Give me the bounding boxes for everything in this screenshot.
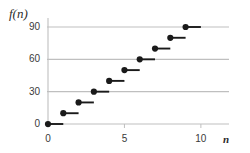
y-axis-label: f(n) xyxy=(9,6,28,22)
data-point-5 xyxy=(121,67,127,73)
data-point-3 xyxy=(91,89,97,95)
data-point-9 xyxy=(182,24,188,30)
x-axis-label: n xyxy=(223,133,229,145)
y-tick-label-90: 90 xyxy=(14,21,40,32)
data-point-4 xyxy=(106,78,112,84)
data-point-8 xyxy=(167,35,173,41)
gridlines-group xyxy=(47,27,229,124)
x-tick-label-5: 5 xyxy=(113,133,135,144)
data-point-0 xyxy=(45,121,51,127)
y-tick-label-0: 0 xyxy=(14,118,40,129)
data-series-group xyxy=(45,24,201,127)
x-tick-label-10: 10 xyxy=(190,133,212,144)
y-tick-label-30: 30 xyxy=(14,86,40,97)
data-point-7 xyxy=(152,45,158,51)
data-point-1 xyxy=(60,110,66,116)
plot-area: f(n) n 0306090 0510 xyxy=(0,0,250,153)
step-function-chart: f(n) n 0306090 0510 xyxy=(0,0,250,153)
x-tick-marks-group xyxy=(48,124,201,128)
data-point-6 xyxy=(137,56,143,62)
x-tick-label-0: 0 xyxy=(37,133,59,144)
data-point-2 xyxy=(75,99,81,105)
y-tick-label-60: 60 xyxy=(14,53,40,64)
